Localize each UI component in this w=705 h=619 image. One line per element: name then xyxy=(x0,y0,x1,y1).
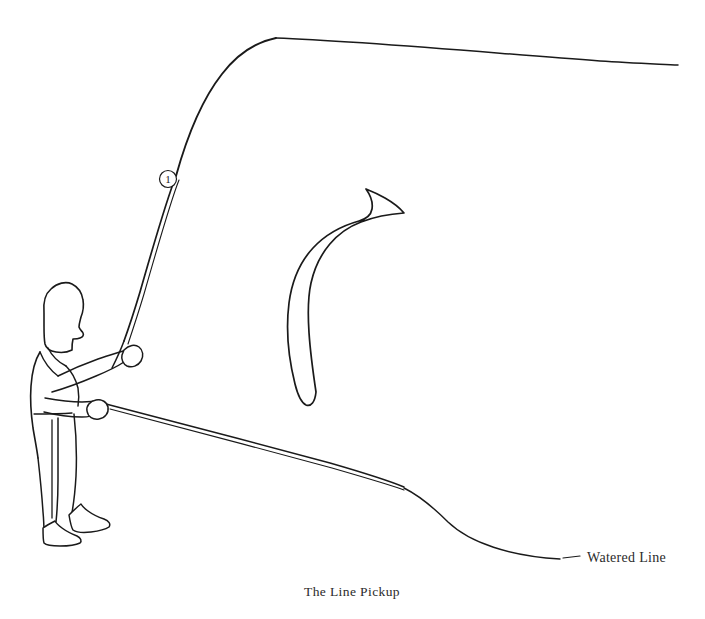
angler-front-leg xyxy=(71,414,76,518)
angler-upper-hand xyxy=(122,345,143,366)
rod-marker-label: 1 xyxy=(165,173,171,185)
angler-lower-hand xyxy=(87,400,108,419)
angler-upper-arm xyxy=(58,350,126,376)
angler-back xyxy=(31,352,40,458)
angler-collar-2 xyxy=(40,352,58,376)
watered-line-label: Watered Line xyxy=(587,550,666,565)
rod-marker-1: 1 xyxy=(160,171,177,188)
angler-back-leg xyxy=(38,458,44,536)
angler-front-shoe xyxy=(69,504,110,532)
fly-angler-figure xyxy=(31,283,143,546)
watered-line-curve xyxy=(106,404,560,559)
airborne-fly-line xyxy=(176,38,678,176)
figure-caption: The Line Pickup xyxy=(304,584,400,599)
line-pickup-illustration: 1 xyxy=(0,0,705,619)
watered-line-leader xyxy=(563,556,580,558)
illustration-canvas: 1 xyxy=(0,0,705,619)
line-pickup-motion-arrow xyxy=(288,189,404,405)
angler-waist xyxy=(34,413,72,414)
angler-front-leg-inner xyxy=(56,418,58,522)
fly-rod xyxy=(112,176,179,368)
angler-head xyxy=(44,283,84,353)
motion-arrow-outline xyxy=(288,189,404,405)
